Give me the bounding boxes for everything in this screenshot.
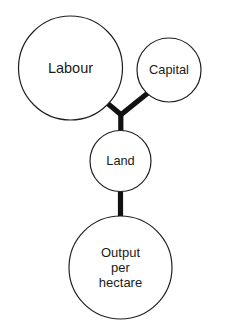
node-capital[interactable]: Capital (137, 38, 201, 102)
node-land[interactable]: Land (90, 131, 151, 192)
node-output-label-line-1: Output (101, 245, 140, 260)
diagram-canvas: Labour Capital Land Output per hectare (0, 0, 229, 325)
node-land-label: Land (106, 153, 134, 168)
connector-capital-to-land (121, 93, 148, 115)
node-output-label-line-2: per (111, 260, 130, 275)
node-output[interactable]: Output per hectare (69, 216, 172, 319)
node-labour[interactable]: Labour (19, 16, 123, 120)
node-output-label-line-3: hectare (99, 275, 142, 290)
node-labour-label: Labour (48, 60, 93, 76)
factor-production-diagram: Labour Capital Land Output per hectare (0, 0, 229, 325)
node-capital-label: Capital (149, 62, 189, 77)
